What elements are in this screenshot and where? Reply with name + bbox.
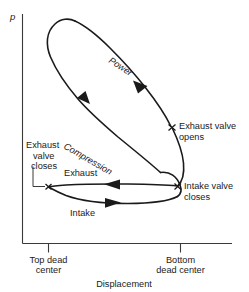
exhaust-direction-arrow <box>104 180 120 190</box>
pv-diagram-figure: p Power Compression Exhaust Intake Exhau… <box>0 0 249 292</box>
exhaust-valve-opens-marker <box>169 125 176 131</box>
x-tick-label-bottom-dead-center-line2: dead center <box>156 265 205 275</box>
x-axis-label: Displacement <box>96 279 152 289</box>
exhaust-valve-closes-line1: Exhaust <box>26 140 60 150</box>
event-marker-group <box>46 125 182 190</box>
x-tick-label-top-dead-center-line1: Top dead <box>30 255 68 265</box>
y-axis-label: p <box>9 11 16 22</box>
compression-direction-arrow <box>77 91 90 104</box>
x-tick-label-top-dead-center-line2: center <box>36 265 62 275</box>
label-group: p Power Compression Exhaust Intake Exhau… <box>9 11 236 289</box>
arrowhead-group <box>77 81 148 208</box>
intake-label: Intake <box>70 208 95 218</box>
intake-valve-closes-line2: closes <box>184 192 210 202</box>
exhaust-valve-opens-line1: Exhaust valve <box>179 121 236 131</box>
exhaust-valve-closes-line2: valve <box>33 151 54 161</box>
x-tick-label-bottom-dead-center-line1: Bottom <box>166 255 195 265</box>
intake-valve-closes-line1: Intake valve <box>184 181 233 191</box>
power-direction-arrow <box>133 81 148 94</box>
pv-diagram-canvas: p Power Compression Exhaust Intake Exhau… <box>0 0 249 292</box>
exhaust-valve-closes-line3: closes <box>31 161 57 171</box>
exhaust-label: Exhaust <box>64 168 98 178</box>
intake-direction-arrow <box>105 198 121 208</box>
exhaust-valve-opens-line2: opens <box>179 132 204 142</box>
